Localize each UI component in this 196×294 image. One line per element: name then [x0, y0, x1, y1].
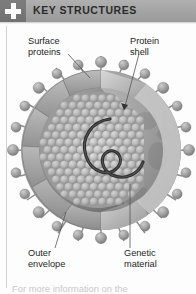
label-protein-shell: Protein shell — [130, 36, 159, 57]
plus-icon-box — [0, 0, 26, 22]
label-genetic-material: Genetic material — [124, 248, 157, 269]
panel-title: KEY STRUCTURES — [33, 4, 137, 16]
panel-header: KEY STRUCTURES — [0, 0, 196, 22]
label-surface-proteins: Surface proteins — [28, 36, 61, 57]
footer-caption-text: For more information on the — [12, 283, 192, 294]
plus-icon — [5, 3, 21, 19]
header-shadow — [0, 22, 196, 24]
virus-diagram: Surface proteins Protein shell Outer env… — [6, 26, 196, 268]
label-outer-envelope: Outer envelope — [28, 248, 65, 269]
key-structures-panel: KEY STRUCTURES — [0, 0, 196, 294]
virus-illustration — [6, 26, 196, 268]
footer-caption: For more information on the — [12, 283, 192, 294]
